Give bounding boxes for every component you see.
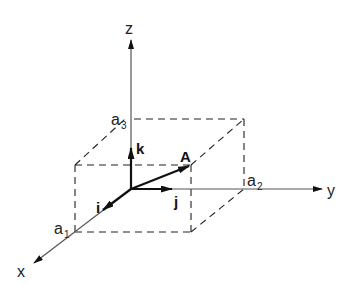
vector-a-label: A xyxy=(180,148,191,165)
z-axis-label: z xyxy=(125,20,133,37)
vector-diagram: z y x k j i A a 3 a 2 a 1 xyxy=(0,0,345,296)
unit-vector-j-label: j xyxy=(173,193,178,210)
box-bottom-right-diagonal xyxy=(191,189,244,232)
unit-vector-i-label: i xyxy=(96,199,100,216)
a2-base: a xyxy=(247,172,256,189)
x-axis-label: x xyxy=(17,263,25,280)
a3-base: a xyxy=(111,111,120,128)
box-top-right-diagonal xyxy=(191,119,244,165)
a1-subscript: 1 xyxy=(64,229,70,240)
unit-vector-k-label: k xyxy=(136,140,145,157)
y-axis-label: y xyxy=(327,182,335,199)
dashed-box xyxy=(75,119,244,232)
unit-vector-i xyxy=(103,189,131,210)
component-a3-label: a 3 xyxy=(111,111,127,131)
a1-base: a xyxy=(54,220,63,237)
component-a1-label: a 1 xyxy=(54,220,70,240)
a2-subscript: 2 xyxy=(257,181,263,192)
vector-a xyxy=(131,166,189,189)
a3-subscript: 3 xyxy=(121,120,127,131)
